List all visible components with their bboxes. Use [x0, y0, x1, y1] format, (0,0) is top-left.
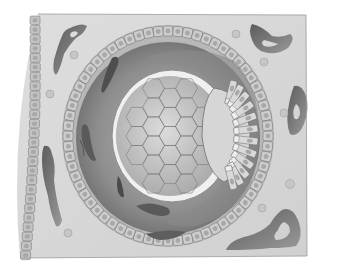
granulosa-cell: [263, 131, 273, 141]
granulosa-cell: [260, 110, 272, 121]
granulosa-cell: [153, 26, 164, 37]
granulosa-cell: [63, 141, 74, 152]
epithelial-cell: [26, 185, 36, 194]
epithelial-cell: [30, 54, 40, 63]
epithelial-cell: [29, 119, 39, 128]
epithelial-cell: [30, 101, 40, 110]
granulosa-cell: [64, 110, 76, 121]
granulosa-cell: [262, 120, 273, 131]
granulosa-cell: [260, 151, 272, 162]
epithelial-cell: [28, 157, 38, 166]
follicle-illustration: [0, 0, 337, 272]
illustration-canvas: [0, 0, 337, 272]
granulosa-cell: [163, 26, 173, 36]
epithelial-cell: [30, 44, 40, 53]
granulosa-cell: [262, 141, 273, 152]
epithelial-cell: [27, 166, 37, 175]
epithelial-cell: [30, 25, 40, 34]
epithelial-cell: [21, 242, 31, 251]
granulosa-cell: [182, 233, 193, 245]
granulosa-cell: [143, 27, 154, 39]
epithelial-cell: [30, 35, 40, 44]
epithelial-cell: [30, 63, 40, 72]
epithelial-cell: [22, 232, 32, 241]
epithelial-cell: [23, 223, 33, 232]
granulosa-cell: [63, 120, 74, 131]
granulosa-cell: [173, 26, 184, 37]
granulosa-cell: [64, 151, 76, 162]
epithelial-cell: [27, 176, 37, 185]
epithelial-cell: [25, 195, 35, 204]
epithelial-cell: [30, 82, 40, 91]
granulosa-cell: [63, 131, 73, 141]
epithelial-cell: [30, 91, 40, 100]
epithelial-cell: [30, 72, 40, 81]
epithelial-cell: [25, 204, 35, 213]
epithelial-cell: [24, 213, 34, 222]
epithelial-cell: [30, 110, 40, 119]
epithelial-cell: [28, 148, 38, 157]
epithelial-cell: [30, 16, 40, 25]
epithelial-cell: [29, 138, 39, 147]
epithelial-cell: [29, 129, 39, 138]
